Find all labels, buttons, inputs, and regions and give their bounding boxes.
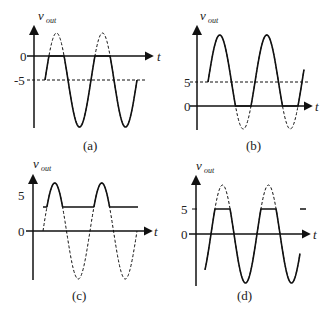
waveform-solid-part — [208, 35, 304, 106]
x-axis-label: t — [315, 99, 319, 114]
panel-d: v out 5 0 t (d) — [181, 158, 317, 303]
caption: (d) — [237, 288, 252, 303]
y-axis-label: v — [196, 158, 202, 173]
waveform-solid-part — [205, 209, 306, 283]
caption: (c) — [72, 288, 86, 303]
panel-c: v out 5 0 t (c) — [18, 156, 158, 303]
y-axis-subscript: out — [41, 164, 52, 173]
level-label-0: 0 — [20, 49, 27, 64]
x-axis-label: t — [154, 224, 158, 239]
panel-b: v out 5 0 t (b) — [184, 8, 319, 153]
clipper-waveforms-figure: v out 0 -5 t (a) v out 5 0 t (b) v out 5… — [0, 0, 334, 321]
level-label-5: 5 — [184, 75, 191, 90]
level-label-0: 0 — [184, 99, 191, 114]
y-axis-subscript: out — [204, 166, 215, 175]
level-label-5: 5 — [181, 202, 188, 217]
y-axis-label: v — [200, 8, 206, 23]
y-axis-subscript: out — [208, 16, 219, 25]
x-axis-label: t — [157, 49, 161, 64]
y-axis-subscript: out — [46, 16, 57, 25]
level-label-5: 5 — [18, 188, 25, 203]
panel-a: v out 0 -5 t (a) — [14, 8, 161, 153]
caption: (a) — [83, 138, 97, 153]
caption: (b) — [246, 138, 261, 153]
waveform-solid-part — [43, 183, 138, 207]
level-label-0: 0 — [181, 227, 188, 242]
level-label-minus5: -5 — [14, 73, 25, 88]
y-axis-label: v — [33, 156, 39, 171]
y-axis-label: v — [38, 8, 44, 23]
level-label-0: 0 — [18, 224, 25, 239]
x-axis-label: t — [313, 227, 317, 242]
waveform-solid-part — [45, 56, 137, 127]
